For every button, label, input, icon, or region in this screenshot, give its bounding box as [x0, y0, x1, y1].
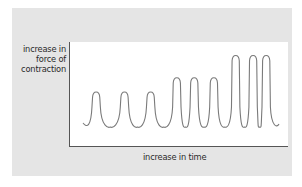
- y-axis-label-line-1: increase in: [12, 44, 66, 54]
- y-axis-label: increase in force of contraction: [12, 44, 66, 74]
- x-axis-label: increase in time: [143, 152, 206, 162]
- waveform-curve: [83, 55, 279, 127]
- y-axis-label-line-2: force of: [12, 54, 66, 64]
- y-axis-label-line-3: contraction: [12, 64, 66, 74]
- contraction-waveform: [70, 42, 288, 146]
- plot-area: [69, 42, 288, 147]
